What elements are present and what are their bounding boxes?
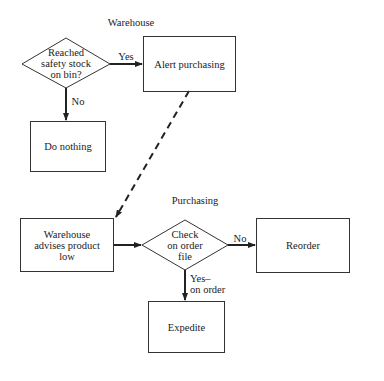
edge-label-no2: No bbox=[230, 233, 250, 244]
expedite-box: Expedite bbox=[148, 301, 225, 353]
decision-order-file-text: Check on order file bbox=[150, 229, 220, 262]
edge-label-no: No bbox=[68, 96, 88, 107]
decision-safety-stock-text: Reached safety stock on bin? bbox=[26, 47, 106, 80]
reorder-text: Reorder bbox=[286, 240, 320, 251]
alert-purchasing-box: Alert purchasing bbox=[143, 36, 236, 92]
section-purchasing: Purchasing bbox=[160, 195, 230, 206]
warehouse-advises-text: Warehouse advises product low bbox=[34, 229, 100, 262]
edge-label-yes-on-order: Yes– on order bbox=[190, 273, 234, 295]
do-nothing-box: Do nothing bbox=[30, 121, 106, 172]
edge-label-yes: Yes bbox=[114, 51, 138, 62]
flowchart: Warehouse Purchasing Reached safety stoc… bbox=[0, 0, 384, 381]
reorder-box: Reorder bbox=[256, 218, 350, 273]
section-warehouse: Warehouse bbox=[96, 17, 166, 28]
do-nothing-text: Do nothing bbox=[44, 141, 92, 152]
warehouse-advises-box: Warehouse advises product low bbox=[20, 218, 114, 272]
alert-purchasing-text: Alert purchasing bbox=[154, 59, 224, 70]
expedite-text: Expedite bbox=[168, 322, 205, 333]
